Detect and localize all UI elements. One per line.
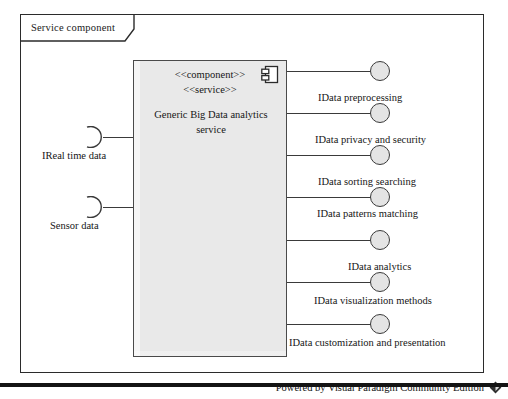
uml-component-icon: [261, 65, 279, 84]
provided-interface-line-1: [287, 71, 371, 72]
required-interface-socket-1[interactable]: [82, 126, 104, 148]
provided-interface-ball-4[interactable]: [370, 187, 390, 207]
provided-interface-label-6: IData visualization methods: [314, 295, 432, 306]
provided-interface-ball-2[interactable]: [370, 103, 390, 123]
frame-label-tab: Service component: [20, 14, 133, 40]
provided-interface-line-6: [287, 282, 371, 283]
diagram-canvas: Service component IReal time data Sensor…: [0, 0, 508, 399]
provided-interface-label-1: IData preprocessing: [318, 92, 402, 103]
provided-interface-label-7: IData customization and presentation: [289, 337, 446, 348]
provided-interface-label-4: IData patterns matching: [317, 208, 418, 219]
provided-interface-label-3: IData sorting searching: [318, 176, 416, 187]
bottom-divider: [0, 383, 508, 387]
required-interface-socket-2[interactable]: [82, 196, 104, 218]
provided-interface-ball-5[interactable]: [370, 230, 390, 250]
provided-interface-ball-1[interactable]: [370, 61, 390, 81]
provided-interface-ball-7[interactable]: [370, 314, 390, 334]
provided-interface-label-5: IData analytics: [348, 261, 411, 272]
required-interface-label-1: IReal time data: [42, 150, 106, 161]
frame-label: Service component: [31, 22, 123, 33]
provided-interface-line-7: [287, 324, 371, 325]
required-interface-line-2: [103, 207, 133, 208]
required-interface-label-2: Sensor data: [50, 220, 99, 231]
provided-interface-line-3: [287, 155, 371, 156]
provided-interface-line-2: [287, 113, 371, 114]
component-name: Generic Big Data analytics service: [141, 107, 281, 137]
component-box[interactable]: <<component>> <<service>> Generic Big Da…: [133, 60, 287, 357]
provided-interface-line-4: [287, 197, 371, 198]
provided-interface-line-5: [287, 240, 371, 241]
required-interface-line-1: [103, 137, 133, 138]
provided-interface-ball-6[interactable]: [370, 272, 390, 292]
provided-interface-label-2: IData privacy and security: [315, 134, 426, 145]
provided-interface-ball-3[interactable]: [370, 145, 390, 165]
component-stereotype-service: <<service>>: [134, 84, 286, 95]
